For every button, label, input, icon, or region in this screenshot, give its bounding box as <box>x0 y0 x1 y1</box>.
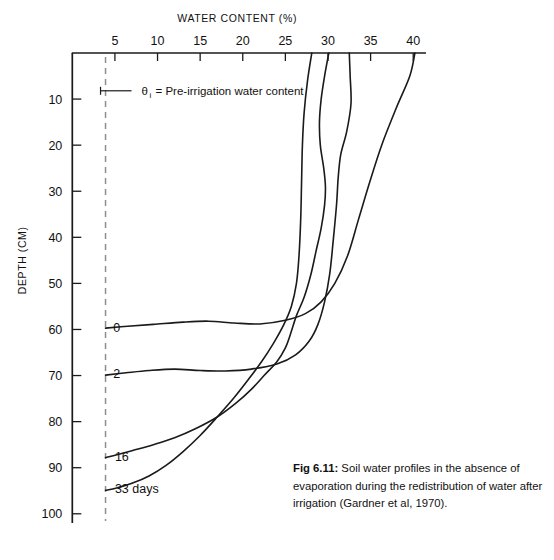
x-tick-label: 25 <box>278 34 292 48</box>
x-tick-label: 15 <box>193 34 207 48</box>
x-axis-title: WATER CONTENT (%) <box>177 12 297 24</box>
legend-description: = Pre-irrigation water content <box>156 85 305 97</box>
y-tick-label: 50 <box>48 277 62 291</box>
x-tick-label: 40 <box>406 34 420 48</box>
y-axis-title: DEPTH (CM) <box>16 226 28 294</box>
y-tick-label: 90 <box>48 461 62 475</box>
x-tick-label: 35 <box>364 34 378 48</box>
series-curve-16 <box>106 53 329 458</box>
series-curve-2 <box>106 53 352 375</box>
figure-container: 510152025303540102030405060708090100WATE… <box>0 0 554 560</box>
y-tick-label: 20 <box>48 139 62 153</box>
x-tick-label: 10 <box>151 34 165 48</box>
legend-theta-subscript: i <box>150 91 152 100</box>
series-curve-33-days <box>106 53 312 490</box>
x-tick-label: 5 <box>111 34 118 48</box>
y-tick-label: 10 <box>48 93 62 107</box>
series-label-2: 2 <box>113 367 120 381</box>
figure-caption: Fig 6.11: Soil water profiles in the abs… <box>293 460 545 513</box>
y-tick-label: 100 <box>41 507 62 521</box>
y-tick-label: 30 <box>48 185 62 199</box>
series-label-0: 0 <box>113 321 120 335</box>
series-label-16: 16 <box>115 450 129 464</box>
caption-label: Fig 6.11: <box>293 462 338 474</box>
series-label-33-days: 33 days <box>115 482 159 496</box>
x-tick-label: 30 <box>321 34 335 48</box>
y-tick-label: 70 <box>48 369 62 383</box>
y-tick-label: 80 <box>48 415 62 429</box>
y-tick-label: 60 <box>48 323 62 337</box>
legend-theta-symbol: θ <box>142 85 148 97</box>
x-tick-label: 20 <box>236 34 250 48</box>
y-tick-label: 40 <box>48 231 62 245</box>
